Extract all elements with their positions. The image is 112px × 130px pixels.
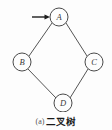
binary-tree-figure: A B C D (a) 二叉树 — [0, 0, 112, 130]
root-pointer-arrow-head — [45, 15, 51, 20]
edge-a-b — [29, 23, 52, 56]
node-a-label: A — [55, 12, 62, 22]
tree-graph-canvas: A B C D — [0, 0, 112, 112]
edge-c-d — [70, 69, 88, 98]
caption-index: (a) — [36, 117, 45, 126]
edge-b-d — [28, 69, 56, 98]
node-b-label: B — [19, 57, 24, 67]
node-d-label: D — [59, 98, 67, 108]
node-c-label: C — [91, 57, 97, 67]
edge-a-c — [66, 23, 87, 56]
caption-text: 二叉树 — [46, 114, 76, 128]
figure-caption: (a) 二叉树 — [0, 112, 112, 130]
